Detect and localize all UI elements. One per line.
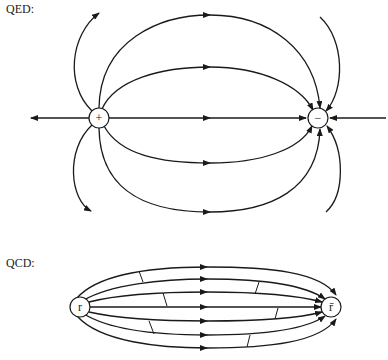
minus-symbol: − <box>315 111 322 125</box>
antiquark-symbol: r̄ <box>329 300 334 314</box>
field-lines-diagram: + − r <box>0 0 388 360</box>
qcd-flux-tube <box>77 267 336 348</box>
antiquark: r̄ <box>321 297 341 317</box>
plus-symbol: + <box>96 111 103 125</box>
quark-symbol: r <box>78 300 82 314</box>
negative-charge: − <box>308 108 328 128</box>
qed-field-lines <box>31 13 386 212</box>
quark: r <box>70 297 90 317</box>
positive-charge: + <box>89 108 109 128</box>
